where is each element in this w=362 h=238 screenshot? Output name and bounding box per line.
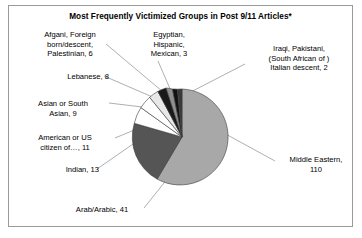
- chart-frame: Most Frequently Victimized Groups in Pos…: [8, 5, 353, 227]
- pie-chart-screenshot: Most Frequently Victimized Groups in Pos…: [0, 0, 362, 238]
- pie-graphic: [9, 6, 354, 228]
- pie-slices: [132, 88, 228, 185]
